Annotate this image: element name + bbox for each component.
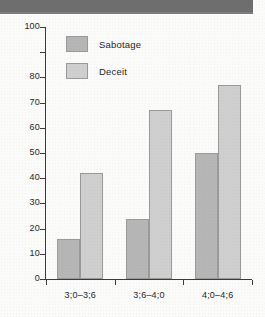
y-tick-label-wrap: 20 [0, 224, 40, 233]
bar-chart: 10080706050403020100 3;0–3;63;6–4;04;0–4… [0, 14, 265, 317]
y-tick-label: 80 [4, 72, 40, 81]
x-tick-mark [46, 280, 47, 285]
y-tick-label: 70 [4, 98, 40, 107]
x-tick-label: 4;0–4;6 [183, 290, 252, 301]
legend-item-deceit: Deceit [66, 61, 141, 81]
y-tick-label: 100 [4, 22, 40, 31]
legend-swatch-deceit [66, 63, 88, 79]
y-tick-mark [40, 128, 45, 129]
chart-page: 10080706050403020100 3;0–3;63;6–4;04;0–4… [0, 0, 265, 317]
y-tick-label: 60 [4, 123, 40, 132]
chart-legend: SabotageDeceit [66, 34, 141, 88]
x-tick-label: 3;6–4;0 [115, 290, 184, 301]
top-dark-band [0, 0, 253, 14]
y-tick-label-wrap: 70 [0, 98, 40, 107]
y-tick-label-wrap: 80 [0, 72, 40, 81]
legend-swatch-sabotage [66, 36, 88, 52]
y-tick-mark [40, 27, 45, 28]
y-tick-label: 10 [4, 249, 40, 258]
y-tick-mark [40, 254, 45, 255]
y-tick-mark [40, 203, 45, 204]
x-tick-mark [115, 280, 116, 285]
bar-sabotage-3 [195, 153, 218, 279]
legend-label: Deceit [99, 66, 127, 77]
x-tick-mark [252, 280, 253, 285]
y-tick-mark [40, 229, 45, 230]
y-tick-mark [40, 279, 45, 280]
y-tick-mark [40, 52, 45, 53]
y-tick-label-wrap: 40 [0, 173, 40, 182]
y-tick-label: 0 [4, 274, 40, 283]
bar-deceit-2 [149, 110, 172, 279]
y-tick-label-wrap: 10 [0, 249, 40, 258]
x-tick-mark [183, 280, 184, 285]
bar-sabotage-2 [126, 219, 149, 279]
y-tick-label-wrap: 0 [0, 274, 40, 283]
y-tick-mark [40, 103, 45, 104]
y-tick-label: 40 [4, 173, 40, 182]
y-tick-label-wrap: 30 [0, 198, 40, 207]
legend-item-sabotage: Sabotage [66, 34, 141, 54]
y-tick-mark [40, 153, 45, 154]
y-tick-mark [40, 77, 45, 78]
y-tick-label-wrap: 100 [0, 22, 40, 31]
bar-deceit-3 [218, 85, 241, 279]
y-tick-label: 50 [4, 148, 40, 157]
x-axis-line [45, 279, 252, 280]
y-tick-label-wrap: 50 [0, 148, 40, 157]
bar-deceit-1 [80, 173, 103, 279]
x-tick-label: 3;0–3;6 [46, 290, 115, 301]
y-tick-label-wrap: 60 [0, 123, 40, 132]
legend-label: Sabotage [99, 39, 141, 50]
y-tick-label: 20 [4, 224, 40, 233]
y-tick-mark [40, 178, 45, 179]
bar-sabotage-1 [57, 239, 80, 279]
y-tick-label: 30 [4, 198, 40, 207]
